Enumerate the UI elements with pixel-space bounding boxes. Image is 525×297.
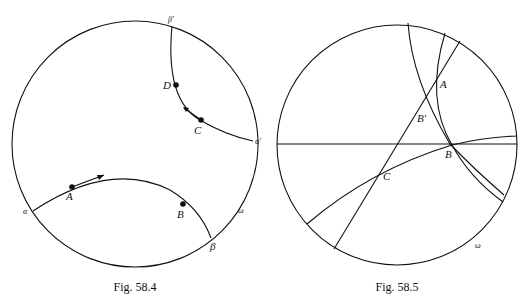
caption-fig-58-4: Fig. 58.4 [113, 280, 156, 294]
label-beta: β [209, 240, 216, 252]
label-D: D [162, 79, 171, 91]
label-omega: ω [475, 241, 481, 250]
label-B: B [445, 148, 452, 160]
figures-canvas: β′ α′ α β ω D C A B Fig. 58.4 A B′ B C ω… [0, 0, 525, 297]
label-A: A [439, 78, 447, 90]
geodesic-arc-CB [307, 136, 517, 224]
label-alpha: α [23, 207, 28, 216]
geodesic-line-CA [334, 41, 460, 249]
arrowhead-icon [97, 175, 104, 180]
label-omega: ω [238, 206, 244, 215]
point-D [173, 82, 179, 88]
geodesic-arc-B-prime-B [408, 23, 504, 195]
label-B-prime: B′ [417, 112, 427, 124]
label-C: C [194, 124, 202, 136]
point-B [180, 201, 186, 207]
label-alpha-prime: α′ [255, 137, 261, 146]
label-B: B [177, 208, 184, 220]
boundary-circle-omega [12, 21, 258, 267]
label-beta-prime: β′ [167, 15, 174, 24]
caption-fig-58-5: Fig. 58.5 [375, 280, 418, 294]
label-C: C [383, 170, 391, 182]
label-A: A [65, 190, 73, 202]
geodesic-alpha-beta [33, 179, 211, 238]
geodesic-beta-prime-alpha-prime [171, 26, 253, 141]
figure-58-5: A B′ B C ω Fig. 58.5 [277, 23, 517, 294]
figure-58-4: β′ α′ α β ω D C A B Fig. 58.4 [12, 15, 261, 294]
geodesic-arc-A-B [436, 33, 503, 202]
